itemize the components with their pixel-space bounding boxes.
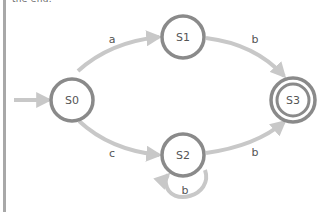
edge-label-a: a [109,33,116,46]
edge-label-b-bottom: b [252,146,259,159]
state-s1: S1 [162,16,204,58]
svg-text:S3: S3 [286,94,300,107]
state-s2: S2 [162,134,204,176]
state-s0: S0 [51,79,93,121]
svg-text:S2: S2 [176,149,190,162]
state-diagram: a b c b b S0 S1 S2 S3 [0,0,326,212]
edge-label-b-top: b [252,33,259,46]
state-s3-accepting: S3 [271,78,315,122]
edge-s0-s1 [78,37,159,71]
edge-label-b-loop: b [182,184,189,197]
edge-s1-s3 [206,38,284,76]
edge-s0-s2 [79,121,159,155]
edge-s2-s3 [206,122,284,153]
svg-text:S0: S0 [65,94,79,107]
svg-text:S1: S1 [176,31,190,44]
edge-label-c: c [109,147,115,160]
